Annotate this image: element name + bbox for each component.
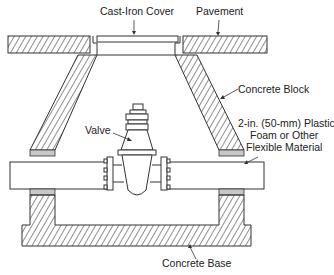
foam-pad-right-bottom <box>219 189 244 195</box>
valve <box>104 104 170 195</box>
label-concrete-base: Concrete Base <box>162 257 232 269</box>
leader-block <box>222 89 238 98</box>
label-flexible-material-3: Flexible Material <box>246 141 322 153</box>
pavement-left <box>8 36 90 53</box>
leader-pavement <box>218 20 219 32</box>
concrete-base <box>22 195 251 246</box>
label-concrete-block: Concrete Block <box>238 83 310 95</box>
pipe-right <box>166 162 264 189</box>
label-cast-iron-cover: Cast-Iron Cover <box>100 5 175 17</box>
label-valve: Valve <box>85 124 111 136</box>
label-flexible-material-1: 2-in. (50-mm) Plastic <box>238 117 334 129</box>
label-flexible-material-2: Foam or Other <box>250 129 319 141</box>
pavement-right <box>183 36 267 53</box>
pipe-left <box>10 162 108 189</box>
concrete-block-right <box>175 55 244 150</box>
foam-pad-right-top <box>219 150 244 156</box>
foam-pad-left-top <box>30 150 55 156</box>
valve-vault-diagram: Cast-Iron Cover Pavement Concrete Block … <box>0 0 334 275</box>
foam-pad-left-bottom <box>30 189 55 195</box>
cast-iron-cover <box>97 36 178 42</box>
label-pavement: Pavement <box>196 5 243 17</box>
